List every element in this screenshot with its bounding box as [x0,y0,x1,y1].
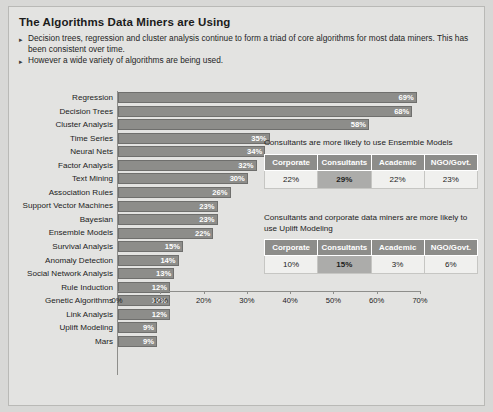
x-axis-tick-label: 30% [239,296,254,305]
x-axis-tick [247,291,248,294]
category-label: Anomaly Detection [9,254,117,268]
bar-value-label: 26% [118,187,231,198]
category-label: Regression [9,91,117,105]
bar-value-label: 15% [118,241,183,252]
bullet-text: Decision trees, regression and cluster a… [28,33,477,54]
bar-value-label: 22% [118,228,213,239]
bar-row: 9% [117,335,486,349]
bar-value-label: 68% [118,106,412,117]
category-label: Cluster Analysis [9,118,117,132]
table-row: 22%29%22%23% [265,170,478,188]
table-column-header: NGO/Govt. [424,240,477,256]
x-axis-tick-label: 60% [369,296,384,305]
inset-caption: Consultants are more likely to use Ensem… [264,138,479,149]
table-row: 10%15%3%6% [265,256,478,274]
table-cell: 3% [371,256,424,274]
table-column-header: Academic [371,154,424,170]
inset-panel-uplift-modeling: Consultants and corporate data miners ar… [264,213,479,274]
category-label: Ensemble Models [9,226,117,240]
bar-value-label: 14% [118,255,179,266]
category-label: Bayesian [9,213,117,227]
slide-panel: The Algorithms Data Miners are Using ▸ D… [8,6,485,406]
category-label: Genetic Algorithms [9,294,117,308]
bullet-item: ▸ However a wide variety of algorithms a… [19,55,477,67]
category-label: Rule Induction [9,281,117,295]
category-label: Neural Nets [9,145,117,159]
bullet-arrow-icon: ▸ [19,33,28,45]
x-axis-tick [420,291,421,294]
x-axis-tick-label: 20% [196,296,211,305]
category-label: Association Rules [9,186,117,200]
category-label: Decision Trees [9,105,117,119]
bar-value-label: 23% [118,201,218,212]
table-column-header: Corporate [265,240,318,256]
x-axis-tick-label: 0% [112,296,123,305]
table-column-header: Academic [371,240,424,256]
category-label: Support Vector Machines [9,199,117,213]
table-header-row: CorporateConsultantsAcademicNGO/Govt. [265,240,478,256]
bar-value-label: 9% [118,336,157,347]
bar-row: 9% [117,321,486,335]
page-title: The Algorithms Data Miners are Using [19,15,477,29]
bullet-text: However a wide variety of algorithms are… [28,55,477,66]
category-label: Uplift Modeling [9,321,117,335]
bar-row: 58% [117,118,486,132]
category-label: Text Mining [9,172,117,186]
bar-value-label: 69% [118,92,417,103]
table-cell: 23% [424,170,477,188]
table-cell: 10% [265,256,318,274]
category-label: Mars [9,335,117,349]
category-label: Link Analysis [9,308,117,322]
table-column-header: Consultants [318,240,371,256]
category-label: Social Network Analysis [9,267,117,281]
table-column-header: Consultants [318,154,371,170]
inset-table: CorporateConsultantsAcademicNGO/Govt. 10… [264,239,478,274]
x-axis-tick [377,291,378,294]
table-cell: 29% [318,170,371,188]
bar-value-label: 35% [118,133,270,144]
x-axis: 0%10%20%30%40%50%60%70% [117,291,486,311]
bar-value-label: 9% [118,322,157,333]
bar-value-label: 30% [118,173,248,184]
slide-header: The Algorithms Data Miners are Using ▸ D… [19,15,477,68]
table-cell: 15% [318,256,371,274]
bar-row: 23% [117,199,486,213]
category-label: Survival Analysis [9,240,117,254]
category-label: Factor Analysis [9,159,117,173]
bar-value-label: 34% [118,146,265,157]
table-header-row: CorporateConsultantsAcademicNGO/Govt. [265,154,478,170]
x-axis-tick-label: 50% [326,296,341,305]
bar-row: 69% [117,91,486,105]
x-axis-tick-label: 70% [412,296,427,305]
x-axis-tick [117,291,118,294]
x-axis-tick [204,291,205,294]
table-column-header: NGO/Govt. [424,154,477,170]
bar-value-label: 58% [118,119,369,130]
inset-panel-ensemble-models: Consultants are more likely to use Ensem… [264,138,479,189]
table-cell: 22% [371,170,424,188]
x-axis-tick [160,291,161,294]
bar-value-label: 32% [118,160,257,171]
table-cell: 6% [424,256,477,274]
category-axis-labels: RegressionDecision TreesCluster Analysis… [9,91,117,348]
x-axis-tick-label: 10% [153,296,168,305]
x-axis-line [117,291,420,292]
bullet-arrow-icon: ▸ [19,55,28,67]
bar-row: 68% [117,105,486,119]
x-axis-tick-label: 40% [283,296,298,305]
bar-value-label: 23% [118,214,218,225]
x-axis-tick [290,291,291,294]
table-column-header: Corporate [265,154,318,170]
bar-value-label: 13% [118,268,174,279]
inset-table: CorporateConsultantsAcademicNGO/Govt. 22… [264,154,478,189]
category-label: Time Series [9,132,117,146]
inset-caption: Consultants and corporate data miners ar… [264,213,479,234]
x-axis-tick [333,291,334,294]
table-cell: 22% [265,170,318,188]
bullet-item: ▸ Decision trees, regression and cluster… [19,33,477,54]
